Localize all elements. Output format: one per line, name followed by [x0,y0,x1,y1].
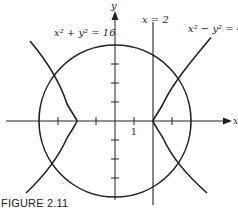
x-axis-arrow-icon [223,118,232,125]
y-axis-arrow-icon [112,11,119,20]
figure-caption: FIGURE 2.11 [1,197,68,209]
circle-equation-label: x² + y² = 16 [54,27,116,38]
figure-canvas: y x 1 x² + y² = 16 x = 2 x² − y² = 4 [0,0,238,212]
x-axis-label: x [233,116,238,126]
y-axis-label: y [110,0,117,11]
hyperbola-left-branch [26,41,77,193]
hyperbola-equation-label: x² − y² = 4 [188,23,238,34]
tick-label-1: 1 [131,127,137,137]
vline-equation-label: x = 2 [142,14,169,25]
